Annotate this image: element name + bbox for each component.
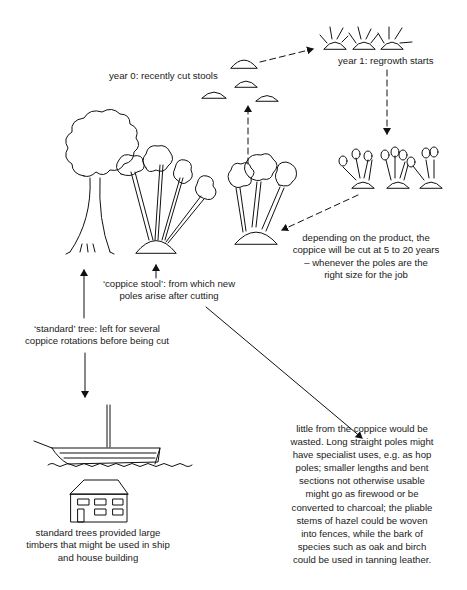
coppice-uses-label: little from the coppice would be wasted.…: [286, 422, 438, 566]
year1-label: year 1: regrowth starts: [338, 55, 433, 67]
coppice-uses-line-2: wasted. Long straight poles might: [286, 435, 438, 448]
standard-tree-label: ‘standard’ tree: left for several coppic…: [20, 323, 174, 348]
standard-uses-line-3: and house building: [22, 552, 174, 564]
standard-uses-line-1: standard trees provided large: [22, 527, 174, 539]
cut-cycle-line-1: depending on the product, the: [290, 232, 442, 244]
coppice-stool-label: ‘coppice stool’: from which new poles ar…: [96, 278, 242, 303]
standard-tree-line-1: ‘standard’ tree: left for several: [20, 323, 174, 335]
coppice-uses-line-5: sections not otherwise usable: [286, 474, 438, 487]
house-icon: [70, 480, 128, 522]
cut-cycle-line-4: right size for the job: [290, 269, 442, 281]
coppice-stool-line-2: poles arise after cutting: [96, 290, 242, 302]
coppice-uses-line-3: have specialist uses, e.g. as hop: [286, 448, 438, 461]
coppice-stool-icon: [116, 146, 216, 253]
arrow-to-coppice-uses: [206, 307, 362, 438]
standard-tree-icon: [66, 109, 139, 254]
coppice-uses-line-8: stems of hazel could be woven: [286, 514, 438, 527]
coppice-uses-line-1: little from the coppice would be: [286, 422, 438, 435]
young-coppice-icon: [339, 147, 442, 188]
regrowth-stools-icon: [320, 27, 412, 49]
mature-coppice-icon: [228, 154, 297, 244]
coppice-uses-line-11: could be used in tanning leather.: [286, 553, 438, 566]
standard-uses-label: standard trees provided large timbers th…: [22, 527, 174, 564]
coppice-uses-line-4: poles; smaller lengths and bent: [286, 461, 438, 474]
standard-tree-line-2: coppice rotations before being cut: [20, 335, 174, 347]
arrow-regrowth-to-mature: [282, 195, 358, 230]
coppice-stool-line-1: ‘coppice stool’: from which new: [96, 278, 242, 290]
cut-cycle-line-3: – whenever the poles are the: [290, 257, 442, 269]
ship-icon: [34, 405, 192, 467]
cycle-arrows: [248, 49, 387, 230]
coppice-uses-line-7: converted to charcoal; the pliable: [286, 501, 438, 514]
year0-label: year 0: recently cut stools: [109, 70, 218, 82]
cut-cycle-line-2: coppice will be cut at 5 to 20 years: [290, 244, 442, 256]
coppice-uses-line-6: might go as firewood or be: [286, 487, 438, 500]
coppice-uses-line-10: species such as oak and birch: [286, 540, 438, 553]
cut-cycle-label: depending on the product, the coppice wi…: [290, 232, 442, 281]
coppice-uses-line-9: into fences, while the bark of: [286, 527, 438, 540]
arrow-year0-to-year1: [260, 49, 313, 62]
standard-uses-line-2: timbers that might be used in ship: [22, 539, 174, 551]
